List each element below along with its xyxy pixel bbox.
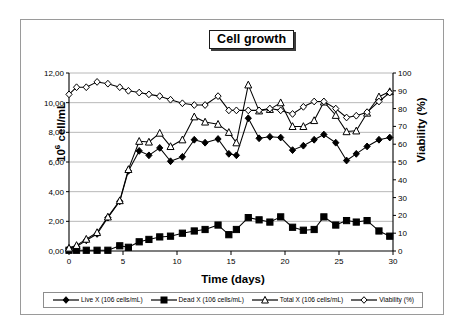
data-point-filled-square [267,219,273,225]
data-point-open-diamond [125,87,131,94]
data-point-open-diamond [311,98,317,105]
data-point-filled-square [167,233,173,239]
legend-item[interactable]: Dead X (106 cells/mL) [150,295,244,305]
data-point-filled-diamond [364,143,370,150]
data-point-filled-square [311,226,317,232]
data-point-open-diamond [233,107,239,114]
data-point-filled-square [321,214,327,220]
x-axis-tick-label: 30 [389,257,398,266]
y-axis-left-exponent: 6 [53,145,62,149]
data-point-filled-square [202,226,208,232]
data-point-filled-square [333,222,339,228]
data-point-filled-square [226,232,232,238]
data-point-filled-diamond [233,152,239,159]
data-point-open-diamond [117,84,123,91]
series-2 [66,81,394,251]
chart-title-box: Cell growth [209,30,294,49]
data-point-filled-square [278,214,284,220]
x-axis-title: Time (days) [21,273,445,285]
data-point-filled-square [300,227,306,233]
data-point-filled-square [179,230,185,236]
y-axis-right-tick-label: 20 [398,211,407,220]
data-point-filled-square [376,228,382,234]
y-axis-left-tick-label: 12,00 [44,69,65,78]
y-axis-right-tick-label: 80 [398,105,407,114]
data-point-filled-diamond [311,136,317,143]
data-point-filled-diamond [63,297,69,304]
data-point-filled-diamond [376,136,382,143]
data-point-open-diamond [83,84,89,91]
data-point-open-diamond [300,103,306,110]
data-point-filled-diamond [267,133,273,140]
data-point-open-diamond [289,111,295,118]
data-point-open-diamond [167,96,173,103]
legend-marker-open-diamond-icon [350,295,378,305]
data-point-filled-square [256,217,262,223]
y-axis-right-tick-label: 60 [398,140,407,149]
data-point-filled-square [387,233,393,239]
legend-label: Total X (106 cells/mL) [280,296,343,304]
data-point-filled-diamond [333,139,339,146]
data-point-open-diamond [105,80,111,87]
y-axis-right-tick-label: 0 [398,247,403,256]
y-axis-right-tick-label: 40 [398,176,407,185]
data-point-open-triangle [202,118,209,125]
legend-item[interactable]: Live X (106 cells/mL) [52,295,143,305]
y-axis-right-tick-label: 70 [398,122,407,131]
y-axis-right-title: Viability (%) [415,85,427,175]
data-point-open-triangle [245,81,252,88]
data-point-open-triangle [156,129,163,136]
data-point-open-diamond [157,93,163,100]
data-point-filled-diamond [387,134,393,141]
data-point-filled-square [125,244,131,250]
data-point-filled-square [233,226,239,232]
x-axis-tick-label: 5 [121,257,126,266]
data-point-filled-square [105,247,111,253]
data-point-open-diamond [146,91,152,98]
y-axis-left-base: 10 [55,149,67,162]
y-axis-right-tick-label: 50 [398,158,407,167]
data-point-open-triangle [179,136,186,143]
y-axis-left-unit: cell/mL [55,102,67,145]
data-point-filled-square [289,224,295,230]
data-point-filled-square [117,243,123,249]
data-point-filled-square [353,219,359,225]
legend-marker-filled-square-icon [150,295,178,305]
legend-item[interactable]: Viability (%) [350,295,414,305]
y-axis-right-tick-label: 30 [398,194,407,203]
legend-marker-open-triangle-icon [251,295,279,305]
legend-item[interactable]: Total X (106 cells/mL) [251,295,343,305]
x-axis-tick-label: 10 [173,257,182,266]
data-point-filled-diamond [256,135,262,142]
data-point-open-diamond [179,100,185,107]
y-axis-left-tick-label: 4,00 [48,188,64,197]
legend-label: Dead X (106 cells/mL) [179,296,244,304]
x-axis-tick-label: 25 [335,257,344,266]
plot-area: 0,002,004,006,008,0010,0012,000102030405… [21,20,445,316]
legend-marker-filled-diamond-icon [52,295,80,305]
data-point-open-diamond [94,79,100,86]
data-point-filled-diamond [343,157,349,164]
data-point-open-diamond [136,89,142,96]
data-point-filled-square [161,297,167,303]
legend-label: Live X (106 cells/mL) [81,296,143,304]
data-point-open-triangle [191,113,198,120]
series-1 [66,214,393,254]
data-point-open-triangle [311,117,318,124]
data-point-open-diamond [245,107,251,114]
y-axis-right-tick-label: 100 [398,69,412,78]
legend-label: Viability (%) [379,296,414,304]
data-point-filled-square [245,215,251,221]
data-point-filled-diamond [136,147,142,154]
data-point-filled-square [157,234,163,240]
data-point-filled-square [343,217,349,223]
data-point-filled-square [83,247,89,253]
data-point-filled-diamond [146,152,152,159]
chart-frame: 0,002,004,006,008,0010,0012,000102030405… [20,19,444,315]
data-point-filled-square [364,217,370,223]
data-point-open-diamond [353,112,359,119]
data-point-filled-square [146,236,152,242]
series-line [69,118,390,249]
series-3 [66,79,393,121]
y-axis-right-tick-label: 10 [398,229,407,238]
